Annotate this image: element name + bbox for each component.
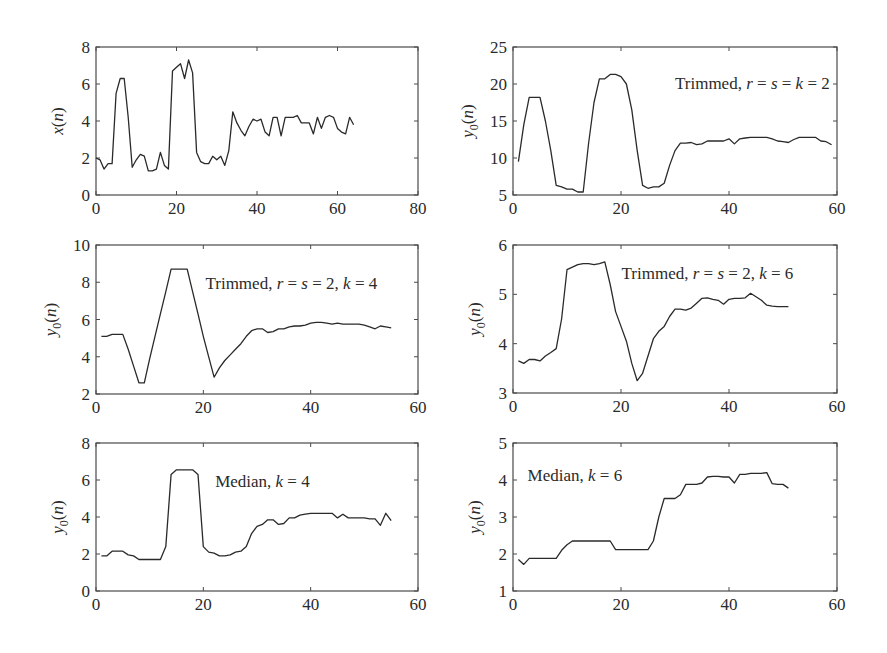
y-axis-label: y0(n) bbox=[48, 500, 71, 535]
y-axis-label: y0(n) bbox=[41, 303, 64, 338]
x-tick-label: 40 bbox=[302, 398, 319, 417]
y-tick-label: 5 bbox=[499, 434, 508, 453]
subplot-trimmed-k4: 0204060246810y0(n)Trimmed, r = s = 2, k … bbox=[41, 236, 427, 417]
y-tick-label: 0 bbox=[82, 582, 91, 601]
y-tick-label: 10 bbox=[490, 149, 507, 168]
y-tick-label: 3 bbox=[499, 508, 508, 527]
y-tick-label: 2 bbox=[82, 385, 91, 404]
y-tick-label: 6 bbox=[499, 236, 508, 255]
y-tick-label: 4 bbox=[82, 112, 91, 131]
y-tick-label: 2 bbox=[82, 545, 91, 564]
x-tick-label: 60 bbox=[410, 595, 427, 614]
x-tick-label: 20 bbox=[613, 595, 630, 614]
y-axis-label: x(n) bbox=[48, 107, 67, 135]
y-tick-label: 8 bbox=[82, 273, 91, 292]
y-tick-label: 6 bbox=[82, 311, 91, 330]
y-axis-label: y0(n) bbox=[465, 500, 488, 535]
panel-annotation: Median, k = 4 bbox=[215, 472, 310, 491]
x-tick-label: 40 bbox=[249, 199, 266, 218]
panel-annotation: Trimmed, r = s = 2, k = 6 bbox=[622, 264, 794, 283]
panel-annotation: Trimmed, r = s = 2, k = 4 bbox=[205, 274, 377, 293]
y-tick-label: 8 bbox=[82, 38, 91, 57]
subplot-trimmed-k2: 0204060510152025y0(n)Trimmed, r = s = k … bbox=[458, 38, 846, 218]
x-tick-label: 40 bbox=[302, 595, 319, 614]
x-tick-label: 60 bbox=[329, 199, 346, 218]
x-tick-label: 20 bbox=[195, 595, 212, 614]
y-tick-label: 2 bbox=[499, 545, 508, 564]
y-tick-label: 25 bbox=[490, 38, 507, 57]
y-tick-label: 0 bbox=[82, 186, 91, 205]
figure-canvas: 02040608002468x(n) 0204060510152025y0(n)… bbox=[0, 0, 887, 653]
y-tick-label: 3 bbox=[499, 384, 508, 403]
x-tick-label: 20 bbox=[613, 199, 630, 218]
data-series-line bbox=[518, 473, 788, 565]
x-tick-label: 20 bbox=[195, 398, 212, 417]
y-tick-label: 4 bbox=[82, 508, 91, 527]
x-tick-label: 60 bbox=[829, 595, 846, 614]
x-tick-label: 0 bbox=[92, 398, 101, 417]
y-tick-label: 6 bbox=[82, 471, 91, 490]
y-tick-label: 15 bbox=[490, 112, 507, 131]
subplot-median-k6: 020406012345y0(n)Median, k = 6 bbox=[465, 434, 846, 614]
y-tick-label: 4 bbox=[82, 348, 91, 367]
y-tick-label: 2 bbox=[82, 149, 91, 168]
x-tick-label: 40 bbox=[721, 397, 738, 416]
x-tick-label: 60 bbox=[410, 398, 427, 417]
subplot-median-k4: 020406002468y0(n)Median, k = 4 bbox=[48, 434, 427, 614]
y-tick-label: 10 bbox=[73, 236, 90, 255]
x-tick-label: 20 bbox=[613, 397, 630, 416]
x-tick-label: 40 bbox=[721, 199, 738, 218]
axes-box bbox=[96, 443, 418, 591]
y-axis-label: y0(n) bbox=[458, 104, 481, 139]
y-tick-label: 4 bbox=[499, 335, 508, 354]
axes-box bbox=[96, 245, 418, 394]
x-tick-label: 0 bbox=[92, 199, 101, 218]
x-tick-label: 0 bbox=[509, 595, 518, 614]
x-tick-label: 60 bbox=[829, 397, 846, 416]
x-tick-label: 0 bbox=[92, 595, 101, 614]
subplot-x-signal: 02040608002468x(n) bbox=[48, 38, 427, 218]
y-tick-label: 8 bbox=[82, 434, 91, 453]
panel-annotation: Trimmed, r = s = k = 2 bbox=[675, 74, 830, 93]
data-series-line bbox=[96, 60, 354, 171]
y-tick-label: 6 bbox=[82, 75, 91, 94]
axes-box bbox=[513, 47, 837, 195]
x-tick-label: 0 bbox=[509, 397, 518, 416]
x-tick-label: 40 bbox=[721, 595, 738, 614]
subplot-trimmed-k6: 02040603456y0(n)Trimmed, r = s = 2, k = … bbox=[465, 236, 846, 416]
y-tick-label: 5 bbox=[499, 285, 508, 304]
x-tick-label: 60 bbox=[829, 199, 846, 218]
x-tick-label: 80 bbox=[410, 199, 427, 218]
y-tick-label: 5 bbox=[499, 186, 508, 205]
panel-annotation: Median, k = 6 bbox=[528, 466, 623, 485]
y-axis-label: y0(n) bbox=[465, 302, 488, 337]
x-tick-label: 0 bbox=[509, 199, 518, 218]
y-tick-label: 20 bbox=[490, 75, 507, 94]
y-tick-label: 1 bbox=[499, 582, 508, 601]
y-tick-label: 4 bbox=[499, 471, 508, 490]
x-tick-label: 20 bbox=[168, 199, 185, 218]
